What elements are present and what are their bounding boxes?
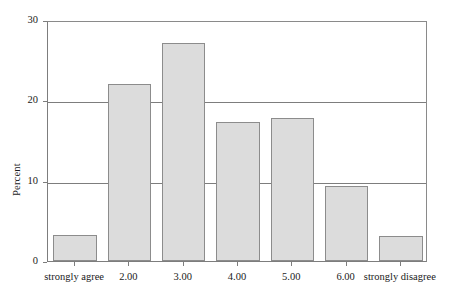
x-tick-mark <box>237 262 238 266</box>
y-tick-mark <box>43 262 47 263</box>
x-tick-label: 6.00 <box>336 271 354 283</box>
x-tick-mark <box>183 262 184 266</box>
bar <box>216 122 259 261</box>
bar <box>53 235 96 261</box>
y-tick-label: 20 <box>0 95 38 105</box>
x-tick-label: strongly disagree <box>364 271 436 283</box>
x-tick-label: strongly agree <box>44 271 104 283</box>
x-tick-label: 5.00 <box>282 271 300 283</box>
bar <box>379 236 422 261</box>
x-tick-mark <box>291 262 292 266</box>
x-tick-mark <box>346 262 347 266</box>
histogram-figure: Percent 0102030 strongly agree2.003.004.… <box>0 0 455 298</box>
y-tick-label: 30 <box>0 15 38 25</box>
x-tick-label: 4.00 <box>228 271 246 283</box>
y-tick-label: 0 <box>0 256 38 266</box>
x-tick-mark <box>400 262 401 266</box>
x-tick-mark <box>128 262 129 266</box>
x-tick-mark <box>74 262 75 266</box>
bar <box>108 84 151 261</box>
y-tick-label: 10 <box>0 176 38 186</box>
bar <box>325 186 368 261</box>
bar <box>271 118 314 261</box>
bar <box>162 43 205 262</box>
x-tick-label: 2.00 <box>119 271 137 283</box>
gridline <box>48 102 426 103</box>
plot-area <box>47 21 427 262</box>
x-tick-label: 3.00 <box>174 271 192 283</box>
